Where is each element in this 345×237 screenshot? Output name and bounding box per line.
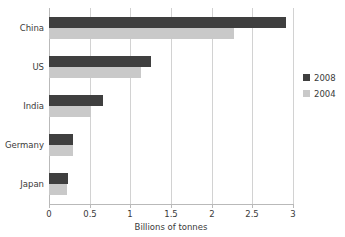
category-label-japan: Japan — [20, 179, 44, 189]
bar-india-2008 — [49, 95, 103, 106]
legend-swatch-icon — [303, 90, 310, 97]
category-label-us: US — [32, 62, 44, 72]
bar-chart: ChinaUSIndiaGermanyJapan 00.511.522.53 B… — [0, 0, 345, 237]
bar-group — [49, 17, 293, 39]
bar-germany-2008 — [49, 134, 73, 145]
legend-swatch-icon — [303, 74, 310, 81]
x-tick-label: 2.5 — [237, 209, 267, 219]
x-tick-mark — [252, 204, 253, 208]
x-tick-label: 0.5 — [75, 209, 105, 219]
x-tick-mark — [293, 204, 294, 208]
plot-area — [49, 8, 293, 204]
legend-label: 2008 — [314, 73, 336, 83]
bar-japan-2004 — [49, 184, 67, 195]
bar-us-2004 — [49, 67, 141, 78]
bar-group — [49, 173, 293, 195]
gridline — [293, 8, 294, 204]
bar-us-2008 — [49, 56, 151, 67]
legend-item-2008[interactable]: 2008 — [303, 71, 336, 84]
x-tick-mark — [212, 204, 213, 208]
bar-group — [49, 134, 293, 156]
bar-group — [49, 95, 293, 117]
bar-india-2004 — [49, 106, 91, 117]
legend: 20082004 — [303, 71, 336, 103]
x-tick-label: 1.5 — [156, 209, 186, 219]
x-tick-label: 1 — [115, 209, 145, 219]
x-tick-mark — [130, 204, 131, 208]
category-label-india: India — [23, 101, 44, 111]
legend-item-2004[interactable]: 2004 — [303, 87, 336, 100]
x-tick-mark — [171, 204, 172, 208]
x-tick-mark — [90, 204, 91, 208]
category-label-china: China — [20, 23, 44, 33]
x-tick-label: 0 — [34, 209, 64, 219]
x-tick-mark — [49, 204, 50, 208]
bar-china-2008 — [49, 17, 286, 28]
bar-japan-2008 — [49, 173, 68, 184]
bar-group — [49, 56, 293, 78]
bar-germany-2004 — [49, 145, 73, 156]
category-label-germany: Germany — [5, 140, 44, 150]
bar-china-2004 — [49, 28, 234, 39]
x-tick-label: 2 — [197, 209, 227, 219]
x-axis-title: Billions of tonnes — [49, 222, 293, 232]
x-tick-label: 3 — [278, 209, 308, 219]
legend-label: 2004 — [314, 89, 336, 99]
